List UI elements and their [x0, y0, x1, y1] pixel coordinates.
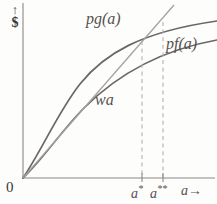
origin-label: 0	[6, 180, 14, 195]
curve-label-pf: pf(a)	[166, 36, 197, 52]
a-starstar-superscript: **	[157, 183, 167, 194]
line-label-wa: wa	[95, 92, 114, 108]
y-axis-label-group: ↑ $	[8, 4, 22, 30]
curve-label-pg: pg(a)	[86, 11, 121, 27]
y-axis-label: $	[8, 16, 22, 30]
x-axis-label-group: a→	[181, 184, 202, 198]
x-tick-label-a-star: a*	[131, 184, 143, 201]
curve-pf	[23, 40, 217, 178]
a-star-base: a	[131, 186, 138, 201]
a-star-superscript: *	[138, 183, 143, 194]
a-starstar-base: a	[150, 186, 157, 201]
x-tick-label-a-starstar: a**	[150, 184, 167, 201]
x-axis-label: a	[181, 183, 188, 198]
right-arrow-icon: →	[188, 183, 202, 198]
production-wage-diagram: ↑ $ pg(a) pf(a) wa a* a** a→ 0	[0, 0, 217, 204]
